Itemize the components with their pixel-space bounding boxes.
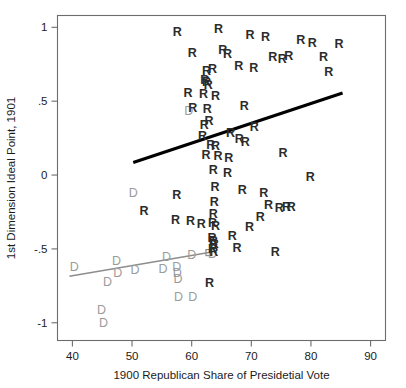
data-point-r: R <box>278 146 287 160</box>
x-tick-label: 80 <box>305 350 318 362</box>
data-point-r: R <box>188 46 197 60</box>
y-tick-label: -.5 <box>34 243 47 255</box>
data-point-r: R <box>172 188 181 202</box>
data-point-d: D <box>188 290 197 304</box>
republican-fit <box>133 93 342 162</box>
data-point-r: R <box>188 101 197 115</box>
data-point-r: R <box>139 204 148 218</box>
data-point-r: R <box>171 213 180 227</box>
data-point-d: D <box>131 263 140 277</box>
data-point-r: R <box>199 87 208 101</box>
data-point-r: R <box>249 61 258 75</box>
data-point-r: R <box>284 49 293 63</box>
plot-frame <box>58 16 386 341</box>
y-axis-title: 1st Dimension Ideal Point, 1901 <box>5 97 17 259</box>
data-point-d: D <box>129 186 138 200</box>
scatter-plot-figure: 1.50-.5-1 405060708090 DDDDDDDDDDDDDDDDD… <box>0 0 406 388</box>
x-tick-label: 90 <box>364 350 377 362</box>
data-point-r: R <box>287 200 296 214</box>
data-point-r: R <box>232 241 241 255</box>
data-point-r: R <box>324 65 333 79</box>
data-point-r: R <box>197 217 206 231</box>
data-point-r: R <box>223 166 232 180</box>
y-tick-label: 0 <box>41 169 47 181</box>
data-point-r: R <box>334 37 343 51</box>
data-point-r: R <box>226 126 235 140</box>
data-point-d: D <box>103 275 112 289</box>
y-tick-label: .5 <box>38 95 48 107</box>
data-point-r: R <box>240 99 249 113</box>
data-point-d: D <box>174 290 183 304</box>
data-point-r: R <box>201 148 210 162</box>
data-point-r: R <box>224 151 233 165</box>
data-point-d: D <box>187 248 196 262</box>
data-point-r: R <box>208 62 217 76</box>
data-point-r: R <box>268 50 277 64</box>
data-point-r: R <box>214 22 223 36</box>
data-point-d: D <box>159 262 168 276</box>
y-axis: 1.50-.5-1 <box>34 21 57 328</box>
data-point-r: R <box>234 59 243 73</box>
data-point-r: R <box>186 214 195 228</box>
data-point-r: R <box>209 163 218 177</box>
data-point-r: R <box>205 276 214 290</box>
data-point-r: R <box>250 120 259 134</box>
data-points: DDDDDDDDDDDDDDDDDDRRRRRRRRRRRRRRRRRRRRRR… <box>70 22 344 330</box>
data-point-d: D <box>99 316 108 330</box>
data-point-d: D <box>173 272 182 286</box>
data-point-d: D <box>97 303 106 317</box>
data-point-r: R <box>173 25 182 39</box>
x-tick-label: 50 <box>126 350 139 362</box>
data-point-r: R <box>245 220 254 234</box>
x-axis-title: 1900 Republican Share of Presidetial Vot… <box>113 369 329 381</box>
data-point-r: R <box>223 47 232 61</box>
data-point-r: R <box>264 198 273 212</box>
data-point-r: R <box>256 210 265 224</box>
x-tick-label: 40 <box>66 350 79 362</box>
data-point-r: R <box>319 50 328 64</box>
data-point-r: R <box>238 183 247 197</box>
data-point-r: R <box>211 89 220 103</box>
data-point-r: R <box>184 86 193 100</box>
data-point-r: R <box>209 245 218 259</box>
x-tick-label: 60 <box>185 350 198 362</box>
y-tick-label: -1 <box>37 317 47 329</box>
data-point-r: R <box>271 245 280 259</box>
data-point-r: R <box>246 28 255 42</box>
data-point-r: R <box>210 180 219 194</box>
data-point-r: R <box>213 149 222 163</box>
data-point-d: D <box>113 266 122 280</box>
plot-canvas: 1.50-.5-1 405060708090 DDDDDDDDDDDDDDDDD… <box>0 0 406 388</box>
data-point-r: R <box>296 33 305 47</box>
x-axis: 405060708090 <box>66 341 377 362</box>
data-point-r: R <box>204 114 213 128</box>
data-point-r: R <box>241 135 250 149</box>
x-tick-label: 70 <box>245 350 258 362</box>
data-point-r: R <box>261 30 270 44</box>
data-point-r: R <box>308 36 317 50</box>
y-tick-label: 1 <box>41 21 47 33</box>
data-point-r: R <box>306 170 315 184</box>
data-point-d: D <box>70 260 79 274</box>
